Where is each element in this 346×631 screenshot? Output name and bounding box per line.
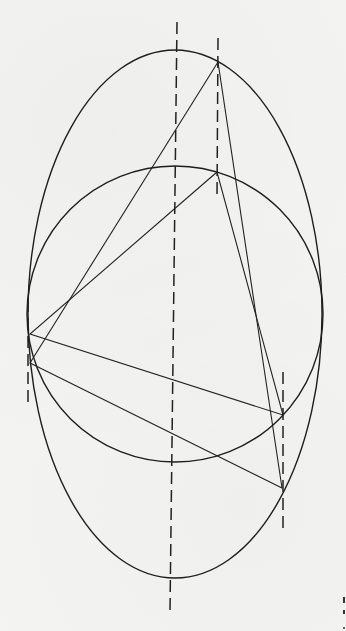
- top-vertex-projection-dashed-line: [217, 38, 218, 198]
- geometry-figure: [0, 0, 346, 631]
- ellipse-inscribed-triangle: [30, 62, 282, 488]
- dashed-projection-lines: [28, 22, 283, 611]
- circle-inscribed-triangle: [30, 172, 283, 415]
- ellipse: [28, 50, 322, 578]
- central-axis-dashed-line: [170, 22, 177, 611]
- scan-specks: [343, 597, 345, 629]
- diagram-canvas: [0, 0, 346, 631]
